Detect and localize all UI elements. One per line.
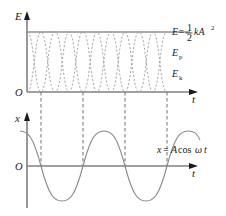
physics-figure-shm-energy: E t O E = 1 2 kA 2 E p E k	[0, 0, 226, 216]
lower-y-axis-label: x	[14, 112, 20, 124]
displacement-eq-omega: ω	[195, 144, 202, 155]
lower-origin-label: O	[15, 161, 23, 172]
displacement-equation-label: x = A cos ω t	[156, 144, 207, 155]
potential-energy-label: E p	[171, 47, 183, 60]
total-energy-label: E = 1 2 kA 2	[171, 22, 215, 43]
kinetic-energy-subscript: k	[179, 74, 183, 81]
kinetic-energy-label: E k	[171, 68, 183, 81]
upper-x-axis	[27, 89, 198, 95]
kinetic-energy-curve	[27, 32, 167, 92]
upper-y-axis-label: E	[14, 10, 22, 22]
displacement-eq-cos: cos	[178, 144, 191, 155]
kinetic-energy-base: E	[171, 68, 178, 79]
displacement-eq-t: t	[204, 144, 207, 155]
upper-y-axis	[24, 11, 30, 92]
displacement-eq-lhs: x	[156, 144, 162, 155]
lower-y-axis	[24, 112, 30, 208]
potential-energy-subscript: p	[179, 53, 183, 60]
total-energy-exponent: 2	[211, 24, 215, 31]
displacement-eq-equals: =	[163, 144, 169, 155]
potential-energy-base: E	[171, 47, 178, 58]
total-energy-lhs: E	[171, 26, 178, 37]
upper-x-axis-label: t	[192, 93, 196, 105]
total-energy-equals: =	[179, 26, 185, 37]
total-energy-denominator: 2	[187, 32, 192, 43]
lower-plot-group: x t O x = A cos ω t	[14, 112, 207, 208]
upper-origin-label: O	[15, 87, 23, 98]
lower-x-axis-label: t	[192, 167, 196, 179]
upper-plot-group: E t O E = 1 2 kA 2 E p E k	[14, 10, 215, 105]
lower-x-axis	[27, 163, 198, 169]
total-energy-tail: kA	[194, 26, 205, 37]
displacement-eq-amplitude: A	[170, 144, 178, 155]
drop-lines-group	[41, 92, 167, 166]
